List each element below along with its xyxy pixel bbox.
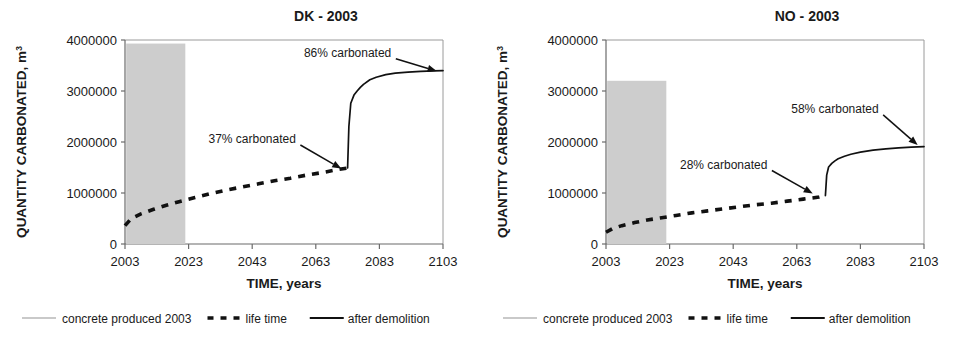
y-tick-label: 2000000 bbox=[547, 135, 598, 150]
legend-label: after demolition bbox=[348, 312, 430, 326]
x-tick-label: 2003 bbox=[592, 254, 621, 269]
x-tick-label: 2023 bbox=[174, 254, 203, 269]
y-tick-label: 0 bbox=[110, 237, 117, 252]
series-concrete-produced-2003 bbox=[126, 44, 185, 244]
annotation-label: 28% carbonated bbox=[680, 158, 767, 172]
x-tick-label: 2083 bbox=[365, 254, 394, 269]
annotation-arrow bbox=[772, 171, 805, 190]
x-tick-label: 2103 bbox=[429, 254, 458, 269]
annotation-arrow bbox=[300, 145, 333, 164]
series-after-demolition bbox=[348, 71, 443, 168]
x-axis-title: TIME, years bbox=[246, 276, 321, 291]
x-tick-label: 2103 bbox=[910, 254, 939, 269]
figure-two-charts: DK - 20030100000020000003000000400000020… bbox=[0, 0, 962, 340]
legend-label: after demolition bbox=[829, 312, 911, 326]
y-axis-title: QUANTITY CARBONATED, m3 bbox=[14, 46, 29, 238]
x-tick-label: 2043 bbox=[719, 254, 748, 269]
series-after-demolition bbox=[825, 147, 924, 196]
x-tick-label: 2063 bbox=[301, 254, 330, 269]
annotation-arrow bbox=[396, 59, 428, 69]
y-tick-label: 1000000 bbox=[547, 186, 598, 201]
chart-no-2003: NO - 20030100000020000003000000400000020… bbox=[481, 0, 962, 340]
x-tick-label: 2023 bbox=[655, 254, 684, 269]
y-tick-label: 3000000 bbox=[66, 84, 117, 99]
chart-panel-dk: DK - 20030100000020000003000000400000020… bbox=[0, 0, 481, 340]
chart-panel-no: NO - 20030100000020000003000000400000020… bbox=[481, 0, 962, 340]
y-tick-label: 4000000 bbox=[66, 33, 117, 48]
x-tick-label: 2063 bbox=[782, 254, 811, 269]
annotation-label: 37% carbonated bbox=[208, 132, 295, 146]
annotation-arrowhead bbox=[427, 65, 437, 72]
legend-label: concrete produced 2003 bbox=[543, 312, 673, 326]
legend-label: life time bbox=[727, 312, 769, 326]
annotation-label: 86% carbonated bbox=[304, 46, 391, 60]
chart-title: DK - 2003 bbox=[294, 8, 358, 24]
legend-label: concrete produced 2003 bbox=[62, 312, 192, 326]
chart-title: NO - 2003 bbox=[775, 8, 840, 24]
chart-legend: concrete produced 2003life timeafter dem… bbox=[22, 312, 430, 326]
y-tick-label: 3000000 bbox=[547, 84, 598, 99]
legend-label: life time bbox=[246, 312, 288, 326]
annotation-arrowhead bbox=[332, 161, 342, 169]
x-tick-label: 2043 bbox=[238, 254, 267, 269]
annotation-label: 58% carbonated bbox=[791, 102, 878, 116]
x-axis-title: TIME, years bbox=[727, 276, 802, 291]
y-tick-label: 2000000 bbox=[66, 135, 117, 150]
x-tick-label: 2083 bbox=[846, 254, 875, 269]
y-tick-label: 1000000 bbox=[66, 186, 117, 201]
y-axis-title: QUANTITY CARBONATED, m3 bbox=[495, 46, 510, 238]
chart-legend: concrete produced 2003life timeafter dem… bbox=[503, 312, 911, 326]
annotation-arrow bbox=[883, 115, 911, 139]
x-tick-label: 2003 bbox=[111, 254, 140, 269]
annotation-arrowhead bbox=[803, 186, 813, 194]
chart-dk-2003: DK - 20030100000020000003000000400000020… bbox=[0, 0, 481, 340]
series-concrete-produced-2003 bbox=[607, 81, 666, 244]
y-tick-label: 0 bbox=[591, 237, 598, 252]
y-tick-label: 4000000 bbox=[547, 33, 598, 48]
